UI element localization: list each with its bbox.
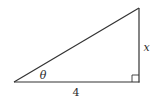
hypotenuse — [14, 8, 139, 82]
triangle — [14, 8, 140, 83]
right-triangle-diagram: θ 4 x — [0, 0, 156, 100]
base-length-label: 4 — [73, 86, 80, 99]
right-angle-marker — [132, 75, 139, 82]
angle-label-theta: θ — [40, 69, 47, 82]
height-label-x: x — [143, 41, 150, 54]
